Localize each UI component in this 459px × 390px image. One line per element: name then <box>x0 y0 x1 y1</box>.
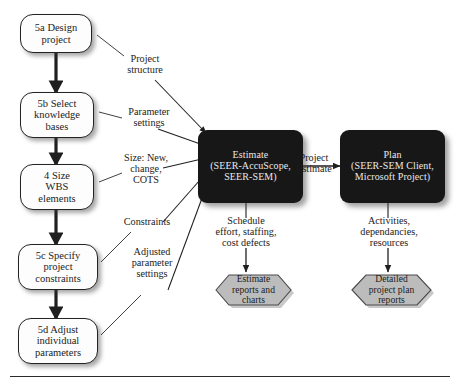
flow-label-project-structure-text: Project structure <box>127 53 163 75</box>
tool-box-estimate-label: Estimate (SEER-AccuScope, SEER-SEM) <box>202 150 299 182</box>
flow-label-constraints: Constraints <box>104 216 190 227</box>
process-box-design-label: 5a Design project <box>35 22 77 45</box>
flow-label-adjusted-parameter-settings-text: Adjusted parameter settings <box>132 246 173 279</box>
tool-box-plan-label: Plan (SEER-SEM Client, Microsoft Project… <box>344 150 441 182</box>
output-estimate-reports-label: Estimate reports and charts <box>232 274 275 305</box>
process-flow-diagram: 5a Design project 5b Select knowledge ba… <box>0 0 459 390</box>
flow-label-schedule-effort: Schedule effort, staffing, cost defects <box>190 215 302 249</box>
flow-label-parameter-settings-text: Parameter settings <box>128 106 169 128</box>
process-box-specify-constraints[interactable]: 5c Specify project constraints <box>18 244 98 290</box>
figure-bottom-rule <box>10 376 450 377</box>
output-plan-reports-label: Detailed project plan reports <box>369 274 415 305</box>
flow-label-size-new-change-cots: Size: New, change, COTS <box>108 152 184 186</box>
process-box-design[interactable]: 5a Design project <box>20 14 92 53</box>
process-box-specify-constraints-label: 5c Specify project constraints <box>35 250 81 284</box>
flow-label-project-estimate: Project Estimate <box>286 152 342 174</box>
process-box-knowledge-bases[interactable]: 5b Select knowledge bases <box>20 92 94 138</box>
process-box-size-wbs-label: 4 Size WBS elements <box>38 170 75 204</box>
flow-label-schedule-effort-text: Schedule effort, staffing, cost defects <box>215 215 276 248</box>
flow-label-parameter-settings: Parameter settings <box>112 106 186 128</box>
process-box-size-wbs[interactable]: 4 Size WBS elements <box>20 164 94 210</box>
output-plan-reports[interactable]: Detailed project plan reports <box>352 274 431 306</box>
flow-label-project-estimate-text: Project Estimate <box>296 152 332 174</box>
process-box-knowledge-bases-label: 5b Select knowledge bases <box>34 98 80 132</box>
tool-box-plan[interactable]: Plan (SEER-SEM Client, Microsoft Project… <box>340 130 445 203</box>
process-box-adjust-parameters[interactable]: 5d Adjust individual parameters <box>18 318 98 364</box>
flow-label-adjusted-parameter-settings: Adjusted parameter settings <box>114 246 190 280</box>
flow-label-constraints-text: Constraints <box>124 216 170 227</box>
flow-label-size-new-change-cots-text: Size: New, change, COTS <box>124 152 168 185</box>
output-estimate-reports[interactable]: Estimate reports and charts <box>216 274 291 306</box>
flow-label-activities: Activities, dependancies, resources <box>333 215 445 249</box>
flow-label-activities-text: Activities, dependancies, resources <box>360 215 417 248</box>
flow-label-project-structure: Project structure <box>110 53 180 75</box>
process-box-adjust-parameters-label: 5d Adjust individual parameters <box>35 324 81 358</box>
